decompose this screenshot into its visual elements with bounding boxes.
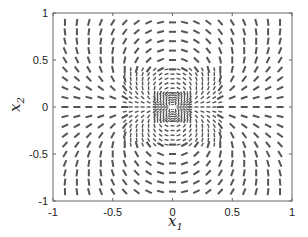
direction-segment — [177, 144, 181, 145]
direction-segment — [123, 111, 127, 112]
direction-segment — [88, 28, 89, 35]
direction-segment — [280, 179, 281, 186]
direction-segment — [153, 109, 156, 110]
direction-segment — [88, 160, 89, 167]
direction-segment — [202, 124, 203, 128]
x-tick-label: 0.5 — [225, 206, 240, 218]
direction-segment — [165, 144, 169, 145]
direction-segment — [256, 47, 257, 54]
origin-marker — [168, 105, 176, 110]
y-tick-label: -1 — [38, 195, 48, 207]
direction-segment — [214, 77, 215, 81]
direction-segment — [214, 143, 215, 147]
line-field-chart: -1-0.500.51 -1-0.500.51 x1 x2 — [0, 0, 308, 237]
direction-segment — [130, 67, 131, 71]
direction-segment — [220, 72, 221, 76]
direction-segment — [208, 82, 209, 86]
direction-segment — [187, 91, 188, 94]
direction-segment — [142, 133, 143, 137]
direction-segment — [244, 169, 245, 176]
x-axis-label: x1 — [168, 212, 183, 232]
direction-segment — [220, 138, 221, 142]
direction-segment — [196, 129, 197, 133]
direction-segment — [124, 138, 125, 142]
direction-segment — [256, 160, 257, 167]
direction-segment — [112, 47, 113, 54]
direction-segment — [174, 92, 177, 93]
direction-segment — [153, 104, 156, 105]
y-axis-label-subscript: 2 — [15, 97, 26, 104]
plot-area — [53, 13, 292, 201]
direction-segment — [232, 160, 233, 167]
direction-segment — [268, 38, 269, 45]
direction-segment — [136, 82, 137, 86]
direction-segment — [208, 72, 209, 76]
direction-segment — [123, 102, 127, 103]
direction-segment — [202, 133, 203, 137]
direction-segment — [130, 133, 131, 137]
direction-segment — [124, 72, 125, 76]
direction-segment — [280, 28, 281, 35]
direction-segment — [218, 111, 222, 112]
direction-segment — [148, 82, 149, 86]
direction-segment — [232, 47, 233, 54]
direction-segment — [148, 129, 149, 133]
direction-segment — [100, 169, 101, 176]
direction-segment — [214, 67, 215, 71]
direction-segment — [100, 38, 101, 45]
direction-segment — [196, 82, 197, 86]
x-tick-label: -1 — [48, 206, 58, 218]
y-tick-label: 0.5 — [33, 54, 48, 66]
direction-segment — [256, 28, 257, 35]
x-tick-label: 1 — [289, 206, 295, 218]
direction-segment — [168, 92, 171, 93]
direction-segment — [142, 77, 143, 81]
direction-segment — [208, 138, 209, 142]
direction-segment — [130, 143, 131, 147]
direction-segment — [142, 86, 143, 90]
direction-segment — [88, 47, 89, 54]
direction-segment — [202, 86, 203, 90]
direction-segment — [244, 151, 245, 158]
direction-segment — [157, 91, 158, 94]
direction-segment — [136, 138, 137, 142]
direction-segment — [256, 179, 257, 186]
direction-segment — [214, 133, 215, 137]
direction-segment — [244, 38, 245, 45]
y-axis-label: x2 — [6, 97, 26, 112]
direction-segment — [130, 77, 131, 81]
direction-segment — [168, 121, 171, 122]
direction-segment — [218, 102, 222, 103]
direction-segment — [65, 179, 66, 186]
direction-segment — [268, 19, 269, 26]
direction-segment — [202, 77, 203, 81]
direction-segment — [136, 72, 137, 76]
direction-segment — [268, 169, 269, 176]
direction-segment — [268, 188, 269, 195]
direction-segment — [189, 109, 192, 110]
direction-segment — [88, 179, 89, 186]
direction-segment — [165, 69, 169, 70]
x-axis-label-subscript: 1 — [176, 221, 182, 232]
direction-segment — [136, 129, 137, 133]
direction-segment — [65, 28, 66, 35]
direction-segment — [208, 129, 209, 133]
direction-segment — [112, 160, 113, 167]
direction-segment — [244, 57, 245, 64]
direction-segment — [100, 57, 101, 64]
y-tick-label: 1 — [42, 7, 48, 19]
y-tick-label: 0 — [42, 101, 48, 113]
x-tick-label: -0.5 — [103, 206, 122, 218]
direction-segment — [174, 121, 177, 122]
direction-segment — [76, 188, 77, 195]
y-tick-label: -0.5 — [29, 148, 48, 160]
direction-segment — [177, 69, 181, 70]
direction-segment — [76, 169, 77, 176]
direction-segment — [100, 151, 101, 158]
direction-segment — [76, 38, 77, 45]
direction-segment — [142, 124, 143, 128]
direction-segment — [189, 104, 192, 105]
direction-segment — [76, 19, 77, 26]
